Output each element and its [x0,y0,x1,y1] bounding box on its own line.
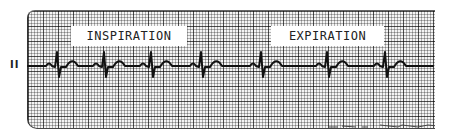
ecg-trace [0,0,451,136]
